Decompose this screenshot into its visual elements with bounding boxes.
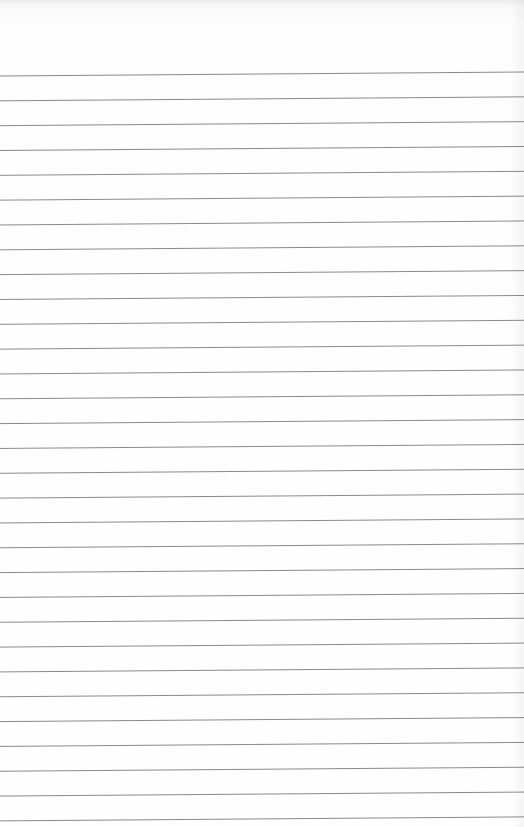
ruled-line [0, 370, 524, 374]
ruled-line [0, 593, 524, 597]
ruled-line [0, 519, 524, 523]
ruled-line [0, 494, 524, 498]
ruled-line [0, 146, 524, 150]
ruled-line [0, 420, 524, 424]
ruled-line [0, 395, 524, 399]
ruled-line [0, 817, 524, 821]
ruled-line [0, 643, 524, 647]
ruled-line [0, 718, 524, 722]
ruled-line [0, 345, 524, 349]
ruled-line [0, 444, 524, 448]
ruled-line [0, 668, 524, 672]
ruled-paper-sheet [0, 0, 524, 827]
ruled-line [0, 618, 524, 622]
ruled-line [0, 122, 524, 126]
ruled-line [0, 221, 524, 225]
ruled-line [0, 72, 524, 76]
ruled-line [0, 792, 524, 796]
ruled-line [0, 693, 524, 697]
ruled-line [0, 246, 524, 250]
ruled-line [0, 544, 524, 548]
ruled-line [0, 171, 524, 175]
ruled-lines [0, 0, 524, 827]
ruled-line [0, 320, 524, 324]
ruled-line [0, 271, 524, 275]
ruled-line [0, 767, 524, 771]
ruled-line [0, 97, 524, 101]
ruled-line [0, 469, 524, 473]
ruled-line [0, 742, 524, 746]
ruled-line [0, 569, 524, 573]
ruled-line [0, 196, 524, 200]
ruled-line [0, 295, 524, 299]
